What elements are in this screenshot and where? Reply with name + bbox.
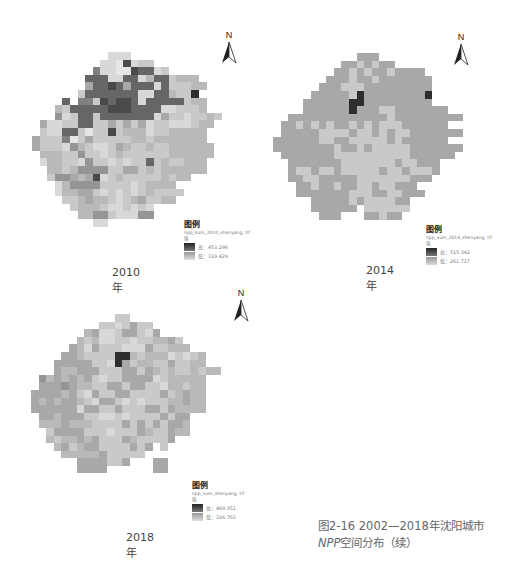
raster-cell bbox=[440, 159, 448, 167]
raster-cell bbox=[448, 76, 456, 84]
raster-cell bbox=[395, 61, 403, 69]
raster-cell bbox=[176, 166, 184, 174]
raster-cell bbox=[46, 329, 54, 337]
raster-cell bbox=[161, 151, 169, 159]
raster-cell bbox=[160, 367, 168, 375]
raster-cell bbox=[153, 375, 161, 383]
raster-cell bbox=[425, 106, 433, 114]
raster-cell bbox=[146, 136, 154, 144]
raster-cell bbox=[175, 398, 183, 406]
raster-cell bbox=[288, 144, 296, 152]
raster-cell bbox=[402, 106, 410, 114]
raster-cell bbox=[130, 436, 138, 444]
raster-cell bbox=[153, 329, 161, 337]
raster-cell bbox=[116, 151, 124, 159]
raster-cell bbox=[146, 82, 154, 90]
raster-cell bbox=[47, 75, 55, 83]
raster-cell bbox=[379, 190, 387, 198]
raster-cell bbox=[130, 428, 138, 436]
raster-cell bbox=[417, 212, 425, 220]
raster-cell bbox=[39, 375, 47, 383]
raster-cell bbox=[357, 137, 365, 145]
raster-cell bbox=[153, 344, 161, 352]
raster-cell bbox=[311, 68, 319, 76]
raster-cell bbox=[153, 466, 161, 474]
raster-cell bbox=[168, 390, 176, 398]
raster-cell bbox=[334, 137, 342, 145]
raster-cell bbox=[54, 375, 62, 383]
raster-cell bbox=[379, 197, 387, 205]
raster-cell bbox=[122, 390, 130, 398]
raster-cell bbox=[154, 211, 162, 219]
raster-cell bbox=[326, 106, 334, 114]
raster-cell bbox=[39, 413, 47, 421]
raster-cell bbox=[99, 436, 107, 444]
raster-cell bbox=[116, 196, 124, 204]
raster-cell bbox=[175, 443, 183, 451]
raster-cell bbox=[85, 196, 93, 204]
raster-cell bbox=[288, 197, 296, 205]
raster-cell bbox=[54, 390, 62, 398]
raster-cell bbox=[61, 451, 69, 459]
legend-raster-name: npp_sum_shenyang. tif bbox=[192, 491, 244, 497]
raster-cell bbox=[40, 75, 48, 83]
raster-cell bbox=[77, 337, 85, 345]
raster-cell bbox=[154, 98, 162, 106]
raster-cell bbox=[319, 159, 327, 167]
raster-cell bbox=[303, 91, 311, 99]
raster-cell bbox=[40, 82, 48, 90]
raster-cell bbox=[138, 90, 146, 98]
raster-cell bbox=[379, 182, 387, 190]
raster-cell bbox=[108, 158, 116, 166]
raster-cell bbox=[334, 175, 342, 183]
raster-cell bbox=[100, 219, 108, 227]
raster-cell bbox=[131, 113, 139, 121]
legend-title: 图例 bbox=[192, 481, 244, 491]
raster-cell bbox=[62, 196, 70, 204]
raster-cell bbox=[425, 91, 433, 99]
raster-cell bbox=[54, 413, 62, 421]
raster-cell bbox=[364, 76, 372, 84]
raster-cell bbox=[273, 129, 281, 137]
raster-cell bbox=[319, 91, 327, 99]
raster-cell bbox=[190, 390, 198, 398]
raster-cell bbox=[357, 159, 365, 167]
raster-cell bbox=[273, 53, 281, 61]
raster-cell bbox=[62, 158, 70, 166]
raster-cell bbox=[379, 114, 387, 122]
raster-cell bbox=[222, 166, 230, 174]
raster-cell bbox=[55, 219, 63, 227]
raster-cell bbox=[206, 413, 214, 421]
raster-cell bbox=[326, 212, 334, 220]
raster-cell bbox=[221, 436, 229, 444]
raster-cell bbox=[93, 174, 101, 182]
raster-cell bbox=[463, 205, 471, 213]
raster-cell bbox=[191, 128, 199, 136]
raster-cell bbox=[198, 413, 206, 421]
raster-cell bbox=[138, 196, 146, 204]
raster-cell bbox=[191, 82, 199, 90]
raster-cell bbox=[448, 212, 456, 220]
raster-cell bbox=[62, 128, 70, 136]
raster-cell bbox=[199, 128, 207, 136]
raster-cell bbox=[387, 144, 395, 152]
raster-cell bbox=[190, 367, 198, 375]
raster-cell bbox=[78, 67, 86, 75]
raster-cell bbox=[221, 382, 229, 390]
raster-cell bbox=[115, 360, 123, 368]
raster-cell bbox=[207, 204, 215, 212]
raster-cell bbox=[288, 137, 296, 145]
raster-cell bbox=[108, 204, 116, 212]
raster-cell bbox=[84, 352, 92, 360]
raster-cell bbox=[145, 428, 153, 436]
raster-cell bbox=[191, 166, 199, 174]
raster-cell bbox=[175, 360, 183, 368]
raster-cell bbox=[288, 152, 296, 160]
raster-cell bbox=[455, 99, 463, 107]
raster-cell bbox=[281, 99, 289, 107]
raster-cell bbox=[92, 337, 100, 345]
raster-cell bbox=[440, 182, 448, 190]
raster-cell bbox=[364, 53, 372, 61]
raster-cell bbox=[190, 329, 198, 337]
raster-cell bbox=[137, 466, 145, 474]
